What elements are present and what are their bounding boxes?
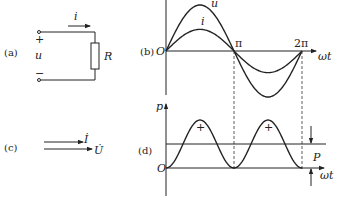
tick-2pi-label: 2π: [294, 37, 308, 50]
panel-c-caption: (c): [4, 142, 18, 153]
phasor-u-label: U̇: [94, 144, 104, 157]
plus-sign: +: [35, 33, 44, 46]
voltage-label: u: [35, 49, 42, 62]
panel-b-x-axis-label: ωt: [318, 50, 332, 63]
diagram-canvas: (a) i + u − R (c) İ U̇ (b) O ωt π 2π u i: [0, 0, 337, 197]
average-power-label: P: [312, 151, 321, 164]
minus-sign: −: [35, 67, 44, 80]
panel-b-caption: (b): [140, 46, 154, 57]
panel-c-phasors: (c) İ U̇: [4, 132, 104, 157]
panel-d-power: (d) O p ωt + + P: [138, 100, 334, 196]
positive-sign-1: +: [196, 121, 205, 134]
current-label: i: [74, 10, 78, 23]
resistor: [91, 43, 99, 69]
panel-b-origin-label: O: [156, 45, 165, 58]
curve-u-label: u: [211, 0, 218, 10]
curve-i-label: i: [201, 15, 205, 28]
tick-pi-label: π: [235, 37, 242, 50]
panel-d-origin-label: O: [157, 162, 166, 175]
panel-d-x-axis-label: ωt: [320, 169, 334, 182]
panel-d-y-axis-label: p: [156, 100, 163, 113]
positive-sign-2: +: [264, 121, 273, 134]
phasor-i-label: İ: [83, 132, 89, 146]
panel-a-circuit: (a) i + u − R: [4, 10, 112, 82]
panel-a-caption: (a): [4, 47, 18, 58]
resistor-label: R: [103, 50, 112, 63]
panel-b-waveforms: (b) O ωt π 2π u i: [140, 0, 332, 97]
panel-d-caption: (d): [138, 145, 152, 156]
